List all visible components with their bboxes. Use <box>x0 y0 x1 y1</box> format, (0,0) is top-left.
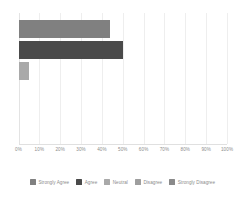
legend-swatch-icon <box>76 179 82 185</box>
bar-strongly-agree <box>19 20 111 38</box>
x-axis-line <box>19 144 228 145</box>
bar-agree <box>19 41 123 59</box>
x-tick-label-10%: 10% <box>35 147 45 152</box>
legend-swatch-icon <box>169 179 175 185</box>
plot-area <box>19 13 228 144</box>
legend-swatch-icon <box>104 179 110 185</box>
x-tick-label-70%: 70% <box>160 147 170 152</box>
legend-item-strongly-agree[interactable]: Strongly Agree <box>30 179 69 185</box>
gridline-100% <box>227 13 228 144</box>
legend-item-strongly-disagree[interactable]: Strongly Disagree <box>169 179 215 185</box>
x-axis-tick-labels: 0%10%20%30%40%50%60%70%80%90%100% <box>0 147 245 159</box>
legend-swatch-icon <box>30 179 36 185</box>
x-tick-label-20%: 20% <box>55 147 65 152</box>
legend-item-agree[interactable]: Agree <box>76 179 97 185</box>
bars-layer <box>19 13 228 144</box>
legend-label: Strongly Agree <box>38 180 69 185</box>
legend-label: Strongly Disagree <box>178 180 215 185</box>
x-tick-label-0%: 0% <box>15 147 22 152</box>
x-tick-label-50%: 50% <box>118 147 128 152</box>
x-tick-label-60%: 60% <box>139 147 149 152</box>
legend-item-neutral[interactable]: Neutral <box>104 179 128 185</box>
legend-label: Agree <box>85 180 98 185</box>
x-tick-label-90%: 90% <box>201 147 211 152</box>
legend-label: Neutral <box>113 180 128 185</box>
legend-swatch-icon <box>135 179 141 185</box>
x-tick-label-40%: 40% <box>97 147 107 152</box>
x-tick-label-30%: 30% <box>76 147 86 152</box>
x-tick-label-80%: 80% <box>181 147 191 152</box>
x-tick-label-100%: 100% <box>221 147 233 152</box>
legend-label: Disagree <box>143 180 162 185</box>
legend-item-disagree[interactable]: Disagree <box>135 179 162 185</box>
chart-legend: Strongly AgreeAgreeNeutralDisagreeStrong… <box>0 174 245 190</box>
bar-chart: 0%10%20%30%40%50%60%70%80%90%100% Strong… <box>0 0 245 198</box>
bar-neutral <box>19 62 29 80</box>
